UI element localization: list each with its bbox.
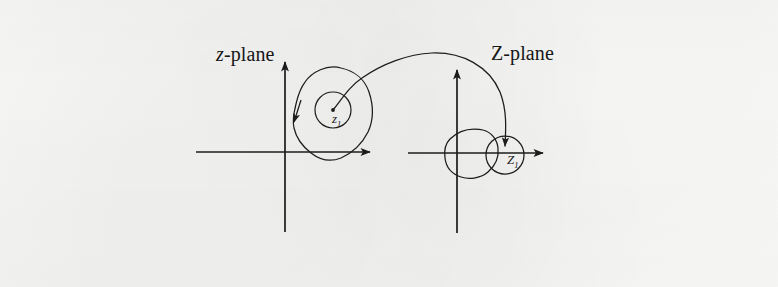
mapping-arc	[333, 53, 506, 146]
Z-plane-label: Z-plane	[491, 43, 554, 63]
z-plane-label: z-plane	[216, 44, 274, 64]
figure-root: z-plane Z-plane z1 Z1	[0, 0, 778, 287]
panel-z-plane	[196, 62, 372, 232]
panel-Z-plane	[408, 70, 543, 233]
Z-plane-label-suffix: -plane	[503, 42, 554, 64]
z1-point-label: z1	[332, 112, 341, 128]
Z1-point-label-subscript: 1	[514, 160, 518, 170]
Z1-point-label: Z1	[507, 153, 518, 169]
diagram-canvas	[0, 0, 778, 287]
z-plane-label-suffix: -plane	[224, 43, 275, 65]
z-plane-label-variable: z	[216, 43, 224, 65]
z1-point-label-subscript: 1	[337, 119, 341, 129]
Z-plane-label-variable: Z	[491, 42, 503, 64]
